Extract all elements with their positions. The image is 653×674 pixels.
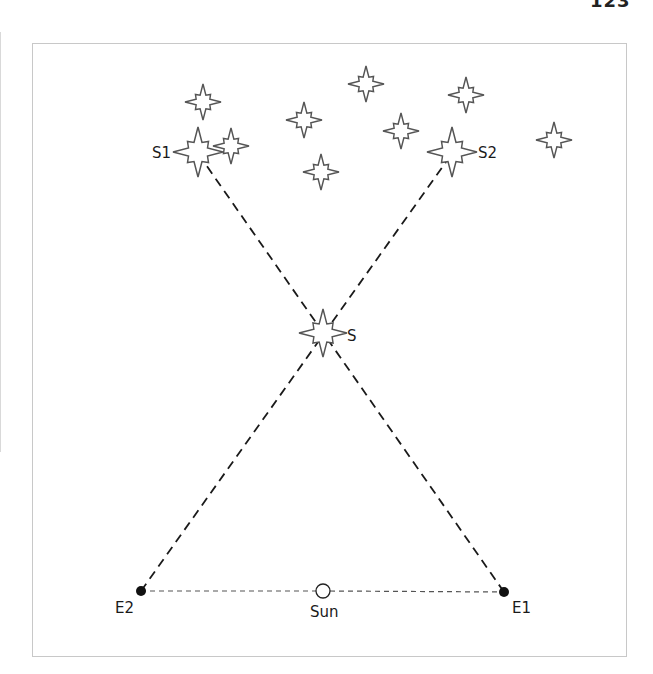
sight-lines [141,162,504,592]
star-icon [303,154,339,190]
label-e2: E2 [115,599,134,617]
baseline-sun-e1 [330,591,504,592]
label-sun: Sun [310,603,339,621]
star-icon [448,77,484,113]
star-s1-icon [173,127,223,177]
label-s2: S2 [478,144,497,162]
star-s2-icon [427,127,477,177]
star-icon [213,128,249,164]
label-s1: S1 [152,144,171,162]
background-stars [185,66,572,190]
label-e1: E1 [512,599,531,617]
earth-e1-dot [499,587,509,597]
star-icon [348,66,384,102]
star-s-icon [299,309,347,357]
sun-icon [316,584,330,598]
star-icon [383,113,419,149]
sight-line-e1-s1 [204,162,504,592]
earth-e2-dot [136,586,146,596]
star-icon [286,102,322,138]
label-s: S [347,327,357,345]
parallax-diagram: S1 S2 S E2 E1 Sun [0,0,653,674]
labelled-stars [173,127,477,357]
sight-line-e2-s2 [141,162,446,591]
star-icon [536,122,572,158]
star-icon [185,84,221,120]
